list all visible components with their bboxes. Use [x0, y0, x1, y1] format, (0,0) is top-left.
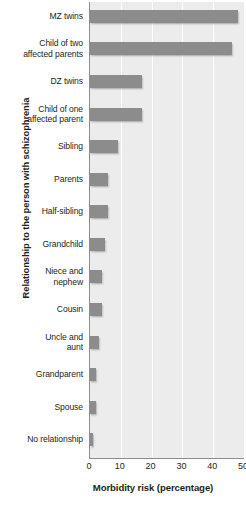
bar — [90, 42, 232, 55]
y-axis-tick-label-line: MZ twins — [0, 11, 83, 22]
y-axis-tick-label: Child of twoaffected parents — [0, 38, 83, 59]
y-axis-tick-label-line: Half-sibling — [0, 206, 83, 217]
bar — [90, 75, 142, 88]
y-axis-tick-label-line: DZ twins — [0, 76, 83, 87]
y-axis-tick-label: DZ twins — [0, 76, 83, 87]
bar — [90, 173, 108, 186]
y-axis-tick-label: MZ twins — [0, 11, 83, 22]
y-axis-tick-labels: MZ twinsChild of twoaffected parentsDZ t… — [0, 2, 86, 458]
y-axis-tick-label-line: Grandparent — [0, 369, 83, 380]
y-axis-tick-label-line: aunt — [0, 342, 83, 353]
x-axis-tick-label: 0 — [77, 461, 101, 471]
y-axis-tick-label: Sibling — [0, 141, 83, 152]
y-axis-tick-label-line: No relationship — [0, 434, 83, 445]
y-axis-tick-label-line: Cousin — [0, 304, 83, 315]
gridline — [244, 2, 245, 458]
x-axis-line — [89, 458, 244, 459]
x-axis-tick-label: 30 — [169, 461, 193, 471]
y-axis-tick-label: Grandparent — [0, 369, 83, 380]
x-axis-tick-labels: 01020304050 — [0, 461, 246, 475]
y-axis-tick-label-line: Uncle and — [0, 332, 83, 343]
y-axis-tick-label-line: Niece and — [0, 266, 83, 277]
y-axis-tick-label-line: Child of one — [0, 104, 83, 115]
y-axis-tick-label: Spouse — [0, 402, 83, 413]
chart-figure: Relationship to the person with schizoph… — [0, 0, 246, 506]
y-axis-tick-label: Grandchild — [0, 239, 83, 250]
y-axis-tick-label: Parents — [0, 174, 83, 185]
bar — [90, 270, 102, 283]
y-axis-tick-label: Uncle andaunt — [0, 332, 83, 353]
plot-area — [89, 2, 244, 458]
bar — [90, 205, 108, 218]
y-axis-tick-label: No relationship — [0, 434, 83, 445]
bar — [90, 140, 118, 153]
y-axis-tick-label: Niece andnephew — [0, 266, 83, 287]
x-axis-tick-label: 20 — [139, 461, 163, 471]
y-axis-tick-label-line: Child of two — [0, 38, 83, 49]
y-axis-tick-label-line: Parents — [0, 174, 83, 185]
bar — [90, 433, 93, 446]
y-axis-tick-label-line: affected parents — [0, 49, 83, 60]
y-axis-tick-label: Child of oneaffected parent — [0, 104, 83, 125]
bar — [90, 401, 96, 414]
y-axis-tick-label-line: Spouse — [0, 402, 83, 413]
bar — [90, 336, 99, 349]
bar — [90, 108, 142, 121]
bar — [90, 10, 238, 23]
y-axis-tick-label: Half-sibling — [0, 206, 83, 217]
x-axis-tick-label: 40 — [200, 461, 224, 471]
bar — [90, 238, 105, 251]
y-axis-tick-label-line: affected parent — [0, 114, 83, 125]
y-axis-tick-label-line: Grandchild — [0, 239, 83, 250]
bar — [90, 368, 96, 381]
x-axis-tick-label: 10 — [108, 461, 132, 471]
bar — [90, 303, 102, 316]
bar-series — [90, 2, 244, 458]
x-axis-title: Morbidity risk (percentage) — [60, 482, 246, 493]
y-axis-tick-label-line: Sibling — [0, 141, 83, 152]
y-axis-tick-label-line: nephew — [0, 277, 83, 288]
y-axis-tick-label: Cousin — [0, 304, 83, 315]
x-axis-tick-label: 50 — [231, 461, 246, 471]
